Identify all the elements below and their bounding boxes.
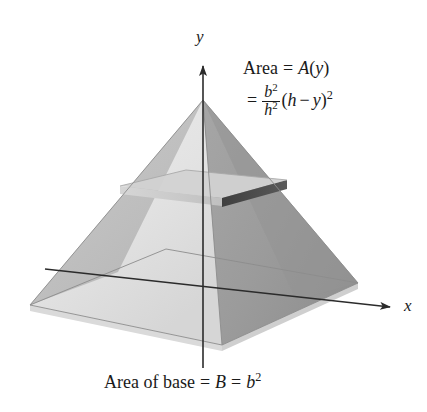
x-axis-label: x [404, 296, 412, 316]
area-fraction: b2 h2 [262, 84, 279, 119]
caption-exponent: 2 [255, 370, 261, 384]
y-axis-label: y [196, 27, 204, 47]
area-equals-1: = [283, 58, 293, 78]
area-word: Area [243, 58, 278, 78]
fraction-denominator: h2 [262, 101, 279, 119]
caption-equals-2: = [231, 372, 241, 392]
area-paren-close: ) [323, 58, 329, 78]
area-minus: − [300, 90, 310, 110]
caption-symbol-b: b [246, 372, 255, 392]
area-equals-2: = [247, 90, 257, 110]
area-var-y: y [313, 90, 321, 110]
pyramid-figure [0, 0, 427, 412]
caption-symbol-B: B [215, 372, 226, 392]
area-function-name: A [298, 58, 309, 78]
area-binomial-exponent: 2 [327, 88, 333, 102]
fraction-denominator-base: h [264, 101, 272, 118]
fraction-numerator-exponent: 2 [272, 81, 277, 93]
base-area-caption: Area of base=B=b2 [104, 372, 261, 393]
area-annotation-line-2: = b2 h2 (h−y)2 [247, 85, 333, 120]
area-annotation: Area=A(y) = b2 h2 (h−y)2 [243, 58, 333, 120]
fraction-denominator-exponent: 2 [272, 98, 277, 110]
caption-equals-1: = [200, 372, 210, 392]
fraction-numerator-base: b [264, 83, 272, 100]
area-annotation-line-1: Area=A(y) [243, 58, 333, 79]
area-var-h: h [288, 90, 297, 110]
caption-text-prefix: Area of base [104, 372, 195, 392]
area-function-arg: y [315, 58, 323, 78]
